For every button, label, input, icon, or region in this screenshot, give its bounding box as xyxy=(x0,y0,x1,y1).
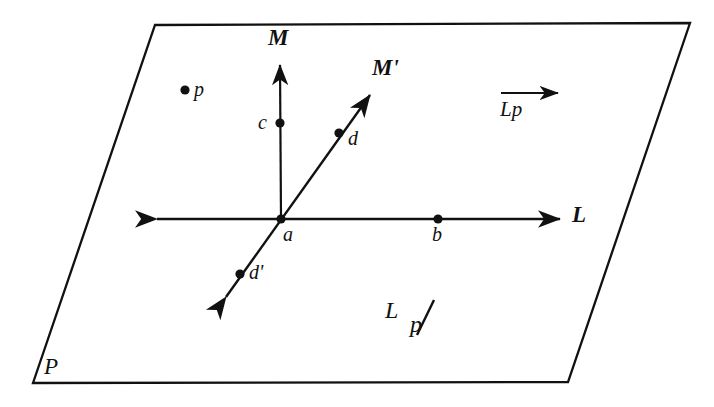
point-label-c: c xyxy=(258,112,267,132)
point-label-d: d xyxy=(348,128,358,148)
point-label-d-prime: d' xyxy=(249,262,263,282)
vector-lp-text: Lp xyxy=(500,99,522,120)
plane-label-P: P xyxy=(44,355,58,378)
point-label-a: a xyxy=(283,224,293,244)
point-label-p: p xyxy=(194,79,204,99)
vector-lp-annotation: Lp xyxy=(500,99,522,120)
quotient-numerator: L xyxy=(385,298,398,322)
line-M xyxy=(280,65,281,219)
line-label-M: M xyxy=(268,26,288,49)
diagram-svg xyxy=(0,0,714,407)
line-M-prime xyxy=(226,95,370,297)
point-label-b: b xyxy=(432,224,442,244)
point-d-dot xyxy=(334,128,343,137)
point-dot-group xyxy=(180,85,442,278)
line-label-L: L xyxy=(572,203,586,226)
line-label-M-prime: M' xyxy=(372,56,399,79)
point-d-prime-dot xyxy=(235,269,244,278)
plane-outline xyxy=(33,23,690,383)
point-p-dot xyxy=(180,85,189,94)
quotient-denominator: p xyxy=(410,312,422,336)
point-c-dot xyxy=(275,118,284,127)
figure-canvas: P L M M' p c a b d d' Lp L p xyxy=(0,0,714,407)
